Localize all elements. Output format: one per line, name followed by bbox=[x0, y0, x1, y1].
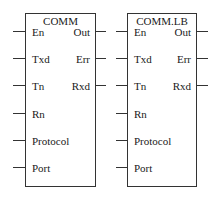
input-wire-port bbox=[116, 167, 127, 168]
input-pin-tn: Tn bbox=[134, 80, 146, 92]
output-pin-err: Err bbox=[177, 53, 191, 65]
input-wire-protocol bbox=[13, 140, 25, 141]
comm-block: COMM En Txd Tn Rn Protocol Port Out Err … bbox=[25, 13, 96, 187]
input-wire-tn bbox=[13, 85, 25, 86]
input-wire-rn bbox=[13, 113, 25, 114]
input-pin-protocol: Protocol bbox=[134, 135, 171, 147]
input-pin-tn: Tn bbox=[32, 80, 44, 92]
input-wire-en bbox=[13, 31, 25, 32]
input-pin-txd: Txd bbox=[134, 53, 152, 65]
output-wire-err bbox=[96, 58, 106, 59]
input-pin-rn: Rn bbox=[134, 108, 147, 120]
input-pin-protocol: Protocol bbox=[32, 135, 69, 147]
output-pin-rxd: Rxd bbox=[173, 80, 191, 92]
input-wire-tn bbox=[116, 85, 127, 86]
input-wire-protocol bbox=[116, 140, 127, 141]
input-wire-txd bbox=[116, 58, 127, 59]
input-pin-en: En bbox=[134, 26, 146, 38]
output-wire-rxd bbox=[96, 85, 106, 86]
comm-lb-block: COMM.LB En Txd Tn Rn Protocol Port Out E… bbox=[127, 13, 197, 187]
input-wire-port bbox=[13, 167, 25, 168]
output-wire-out bbox=[197, 31, 208, 32]
output-pin-rxd: Rxd bbox=[72, 80, 90, 92]
input-pin-port: Port bbox=[134, 162, 152, 174]
output-pin-err: Err bbox=[76, 53, 90, 65]
input-wire-txd bbox=[13, 58, 25, 59]
output-wire-out bbox=[96, 31, 106, 32]
input-wire-en bbox=[116, 31, 127, 32]
output-wire-err bbox=[197, 58, 208, 59]
output-wire-rxd bbox=[197, 85, 208, 86]
input-pin-rn: Rn bbox=[32, 108, 45, 120]
input-pin-en: En bbox=[32, 26, 44, 38]
input-pin-txd: Txd bbox=[32, 53, 50, 65]
input-pin-port: Port bbox=[32, 162, 50, 174]
output-pin-out: Out bbox=[74, 26, 91, 38]
input-wire-rn bbox=[116, 113, 127, 114]
output-pin-out: Out bbox=[175, 26, 192, 38]
